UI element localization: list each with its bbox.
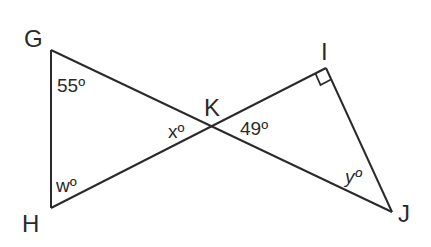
geometry-diagram: G H K I J 55º wº xº 49º yº <box>0 0 431 247</box>
vertex-label-j: J <box>398 200 410 227</box>
vertex-label-i: I <box>321 38 328 65</box>
angle-label-j: yº <box>343 166 363 187</box>
segment-gj <box>51 50 392 212</box>
angle-label-h: wº <box>55 175 77 196</box>
segment-ij <box>326 68 392 212</box>
segment-hi <box>51 68 326 208</box>
angle-label-k-right: 49º <box>240 118 268 139</box>
angle-label-k-left: xº <box>168 121 185 142</box>
vertex-label-h: H <box>22 210 39 237</box>
vertex-label-k: K <box>204 94 220 121</box>
vertex-label-g: G <box>24 25 43 52</box>
angle-label-g: 55º <box>57 75 85 96</box>
